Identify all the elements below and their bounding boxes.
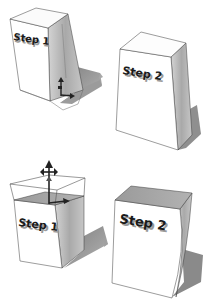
box-side-face <box>48 14 83 101</box>
panel-bottom-right-step2: Step 2 Step 2 <box>104 186 203 298</box>
panel-top-left-step1: Step 1 Step 1 <box>10 8 102 110</box>
panel-top-right-step2: Step 2 Step 2 <box>99 32 201 150</box>
tutorial-figure: Step 1 Step 1 Step 2 Step 2 <box>0 0 209 302</box>
panel-bottom-left-step1: Step 1 Step 1 <box>10 160 108 268</box>
